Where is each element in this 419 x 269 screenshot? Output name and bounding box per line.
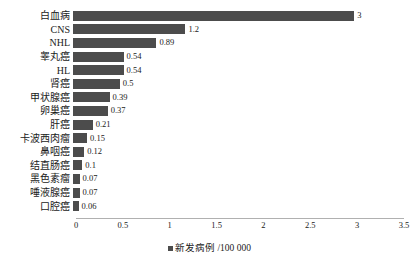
- category-label: 白血病: [0, 10, 73, 21]
- bar: [73, 133, 87, 143]
- bar-value-label: 0.07: [80, 188, 98, 197]
- x-axis-line: [76, 218, 404, 219]
- category-label: 睾丸癌: [0, 51, 73, 62]
- bar: [73, 147, 84, 157]
- x-tick-label: 1: [168, 220, 172, 231]
- bar-value-label: 0.37: [108, 106, 126, 115]
- bar-row: 唾液腺癌0.07: [0, 186, 419, 200]
- category-label: 卡波西肉瘤: [0, 133, 73, 144]
- bar-value-label: 0.12: [84, 147, 102, 156]
- bar-track: 0.54: [73, 50, 419, 64]
- bar-track: 0.07: [73, 186, 419, 200]
- bar-row: 卵巢癌0.37: [0, 104, 419, 118]
- legend-label: 新发病例 /100 000: [175, 243, 251, 254]
- category-label: 黑色素瘤: [0, 173, 73, 184]
- x-tick-label: 3: [355, 220, 359, 231]
- bar-value-label: 0.21: [93, 120, 111, 129]
- category-label: 肝癌: [0, 119, 73, 130]
- bar-row: 黑色素瘤0.07: [0, 172, 419, 186]
- bar: [73, 160, 82, 170]
- bar-value-label: 0.39: [110, 93, 128, 102]
- bar-row: HL0.54: [0, 63, 419, 77]
- bar-value-label: 0.89: [156, 38, 174, 47]
- bar-track: 0.5: [73, 77, 419, 91]
- bar-track: 0.21: [73, 118, 419, 132]
- bar: [73, 65, 124, 75]
- bar-value-label: 1.2: [185, 25, 199, 34]
- category-label: 口腔癌: [0, 201, 73, 212]
- bar-chart: 白血病3CNS1.2NHL0.89睾丸癌0.54HL0.54肾癌0.5甲状腺癌0…: [0, 0, 419, 269]
- bar-track: 0.1: [73, 159, 419, 173]
- x-tick-label: 0: [74, 220, 78, 231]
- bar-row: 白血病3: [0, 9, 419, 23]
- category-label: NHL: [0, 37, 73, 48]
- category-label: 卵巢癌: [0, 105, 73, 116]
- bar-value-label: 3: [354, 11, 361, 20]
- bar-track: 0.54: [73, 63, 419, 77]
- bar-value-label: 0.1: [82, 161, 96, 170]
- category-label: CNS: [0, 24, 73, 35]
- bar-row: 睾丸癌0.54: [0, 50, 419, 64]
- x-tick-label: 2: [261, 220, 265, 231]
- category-label: 唾液腺癌: [0, 187, 73, 198]
- bar-value-label: 0.07: [80, 174, 98, 183]
- category-label: 肾癌: [0, 78, 73, 89]
- bar-track: 0.15: [73, 131, 419, 145]
- bar-row: 肾癌0.5: [0, 77, 419, 91]
- x-tick-label: 0.5: [118, 220, 129, 231]
- x-tick-label: 1.5: [211, 220, 222, 231]
- bar-row: NHL0.89: [0, 36, 419, 50]
- bar: [73, 92, 110, 102]
- bar: [73, 24, 185, 34]
- bar: [73, 120, 93, 130]
- category-label: HL: [0, 65, 73, 76]
- x-axis-tick-labels: 00.511.522.533.5: [76, 220, 404, 234]
- bar: [73, 38, 156, 48]
- bar-value-label: 0.54: [124, 66, 142, 75]
- category-label: 甲状腺癌: [0, 92, 73, 103]
- bar-track: 0.07: [73, 172, 419, 186]
- bar-row: 肝癌0.21: [0, 118, 419, 132]
- bar-track: 0.89: [73, 36, 419, 50]
- bar: [73, 106, 108, 116]
- bar-value-label: 0.5: [120, 79, 134, 88]
- chart-legend: 新发病例 /100 000: [0, 243, 419, 254]
- x-tick-label: 3.5: [399, 220, 410, 231]
- bar-track: 0.39: [73, 91, 419, 105]
- bar-row: 口腔癌0.06: [0, 199, 419, 213]
- plot-area: 白血病3CNS1.2NHL0.89睾丸癌0.54HL0.54肾癌0.5甲状腺癌0…: [0, 9, 419, 218]
- bar-row: 甲状腺癌0.39: [0, 91, 419, 105]
- bar-row: 结直肠癌0.1: [0, 159, 419, 173]
- x-tick-label: 2.5: [305, 220, 316, 231]
- category-label: 鼻咽癌: [0, 146, 73, 157]
- bar-track: 1.2: [73, 23, 419, 37]
- bar: [73, 79, 120, 89]
- bar-value-label: 0.06: [79, 202, 97, 211]
- bar: [73, 52, 124, 62]
- bar-track: 3: [73, 9, 419, 23]
- legend-entry: 新发病例 /100 000: [168, 243, 251, 254]
- bar-track: 0.12: [73, 145, 419, 159]
- bar-value-label: 0.54: [124, 52, 142, 61]
- bar-row: 鼻咽癌0.12: [0, 145, 419, 159]
- bar: [73, 11, 354, 21]
- bar-value-label: 0.15: [87, 134, 105, 143]
- category-label: 结直肠癌: [0, 160, 73, 171]
- bar-row: 卡波西肉瘤0.15: [0, 131, 419, 145]
- bar-track: 0.37: [73, 104, 419, 118]
- bar-row: CNS1.2: [0, 23, 419, 37]
- legend-swatch-icon: [168, 246, 173, 251]
- bar-track: 0.06: [73, 199, 419, 213]
